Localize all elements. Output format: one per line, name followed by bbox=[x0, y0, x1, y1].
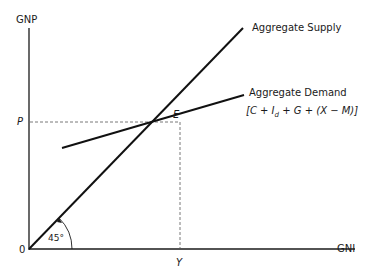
price-label: P bbox=[17, 117, 23, 127]
aggregate-supply-label: Aggregate Supply bbox=[252, 23, 341, 33]
aggregate-demand-formula: [C + Id + G + (X − M)] bbox=[246, 106, 358, 119]
x-axis-label: GNI bbox=[337, 244, 355, 254]
angle-label: 45° bbox=[48, 234, 64, 243]
equilibrium-label: E bbox=[173, 110, 179, 120]
aggregate-demand-line bbox=[62, 95, 244, 148]
y-axis-label: GNP bbox=[16, 15, 37, 25]
aggregate-demand-label: Aggregate Demand bbox=[249, 88, 347, 98]
origin-label: 0 bbox=[19, 245, 25, 255]
output-label: Y bbox=[176, 258, 182, 268]
aggregate-supply-line bbox=[29, 28, 243, 249]
